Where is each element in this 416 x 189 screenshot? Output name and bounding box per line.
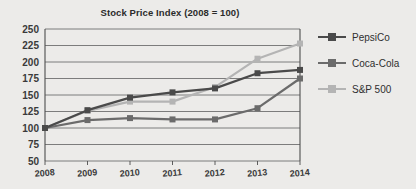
- svg-text:200: 200: [22, 57, 39, 68]
- svg-text:2012: 2012: [204, 167, 225, 179]
- svg-text:225: 225: [22, 40, 39, 51]
- legend-item-cocacola[interactable]: Coca-Cola: [318, 50, 416, 76]
- svg-text:2008: 2008: [34, 167, 55, 179]
- x-axis-tick-labels: 2008200920102011201220132014: [34, 167, 310, 179]
- stock-price-index-chart: Stock Price Index (2008 = 100) 250225200…: [0, 0, 416, 189]
- svg-text:2010: 2010: [119, 167, 140, 179]
- legend-marker-sp500: [318, 84, 346, 94]
- legend-marker-cocacola: [318, 58, 346, 68]
- legend-label-sp500: S&P 500: [352, 84, 391, 95]
- data-series-group: [42, 41, 303, 131]
- x-tick-marks: [45, 161, 300, 165]
- svg-text:2013: 2013: [247, 167, 268, 179]
- svg-text:50: 50: [28, 156, 40, 167]
- legend-square-pepsico: [328, 33, 336, 41]
- svg-text:2009: 2009: [77, 167, 98, 179]
- y-axis-tick-labels: 2502252001751501251007550: [22, 24, 39, 167]
- svg-text:175: 175: [22, 73, 39, 84]
- chart-legend: PepsiCo Coca-Cola S&P 500: [318, 24, 416, 102]
- svg-text:2014: 2014: [289, 167, 310, 179]
- legend-item-sp500[interactable]: S&P 500: [318, 76, 416, 102]
- legend-item-pepsico[interactable]: PepsiCo: [318, 24, 416, 50]
- svg-text:125: 125: [22, 106, 39, 117]
- legend-marker-pepsico: [318, 32, 346, 42]
- svg-text:2011: 2011: [162, 167, 182, 179]
- legend-square-cocacola: [328, 59, 336, 67]
- svg-text:150: 150: [22, 90, 39, 101]
- legend-square-sp500: [328, 85, 336, 93]
- svg-text:75: 75: [28, 139, 40, 150]
- svg-text:100: 100: [22, 123, 39, 134]
- legend-label-pepsico: PepsiCo: [352, 32, 390, 43]
- svg-text:250: 250: [22, 24, 39, 35]
- legend-label-cocacola: Coca-Cola: [352, 58, 399, 69]
